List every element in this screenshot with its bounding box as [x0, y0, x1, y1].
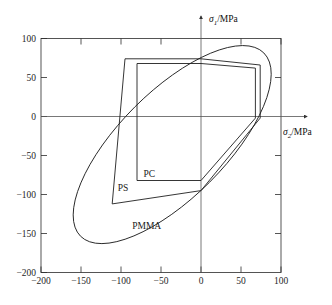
x-tick-label: 50: [236, 276, 246, 286]
y-tick-label: −50: [21, 151, 36, 161]
y-tick-label: −100: [16, 190, 36, 200]
locus-ps: [112, 59, 260, 204]
curve-label-pc: PC: [143, 169, 155, 179]
plot-frame: [41, 39, 281, 273]
plot-canvas: −200 −150 −100 −50 0 50 100 100 50 0 −50…: [0, 0, 332, 305]
svg-text:σ2/MPa: σ2/MPa: [283, 127, 313, 140]
x-tick-label: 0: [199, 276, 204, 286]
y-tick-label: −200: [16, 268, 36, 278]
x-tick-label: −150: [71, 276, 91, 286]
y-tick-label: 100: [22, 34, 37, 44]
x-tick-label: −50: [154, 276, 169, 286]
x-tick-label: 100: [274, 276, 289, 286]
y-tick-label: −150: [16, 229, 36, 239]
locus-pmma: [43, 15, 301, 273]
yield-locus-figure: −200 −150 −100 −50 0 50 100 100 50 0 −50…: [0, 0, 332, 305]
sigma2-unit: /MPa: [291, 127, 312, 137]
x-tick-labels: −200 −150 −100 −50 0 50 100: [31, 276, 288, 286]
x-axis-ticks: [41, 267, 281, 273]
y-axis-title: σ1/MPa: [209, 14, 239, 27]
y-tick-label: 0: [31, 112, 36, 122]
svg-text:σ1/MPa: σ1/MPa: [209, 14, 239, 27]
y-tick-labels: 100 50 0 −50 −100 −150 −200: [16, 34, 36, 278]
x-tick-label: −100: [111, 276, 131, 286]
x-axis-title: σ2/MPa: [283, 127, 313, 140]
curve-label-pmma: PMMA: [132, 221, 161, 231]
curve-label-ps: PS: [118, 183, 129, 193]
y-axis-ticks: [41, 39, 47, 273]
y-tick-label: 50: [27, 73, 37, 83]
y-axis-ticks-right: [275, 78, 281, 234]
sigma1-unit: /MPa: [217, 14, 238, 24]
x-axis-ticks-top: [81, 39, 281, 45]
locus-pc: [137, 64, 255, 181]
